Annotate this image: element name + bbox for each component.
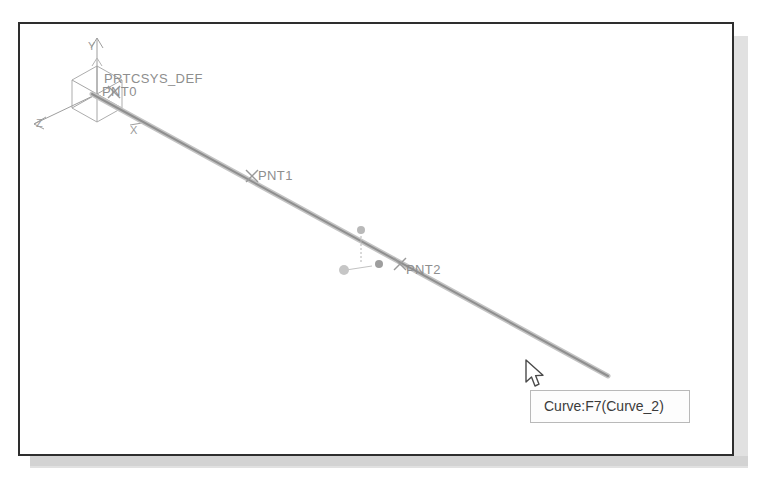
- cad-graphics-window[interactable]: Y Z X PRTCSYS_DEF PNT0 PNT1 PNT2 Curve:F…: [18, 22, 734, 456]
- drag-handle-dot-top: [357, 226, 365, 234]
- drag-handle-anchor: [375, 260, 383, 268]
- curve-f7-curve-2[interactable]: [92, 94, 608, 376]
- axis-label-z: Z: [36, 117, 43, 129]
- point-label-pnt0: PNT0: [102, 84, 137, 99]
- point-label-pnt1: PNT1: [258, 168, 293, 183]
- desktop-bottom-band: [30, 456, 748, 468]
- selection-tooltip: Curve:F7(Curve_2): [530, 390, 690, 423]
- drag-handle-stem-diagonal: [346, 266, 372, 270]
- drag-handle-dot-left: [339, 265, 349, 275]
- axis-label-y: Y: [88, 40, 96, 52]
- axis-label-x: X: [130, 124, 138, 136]
- page-root: Y Z X PRTCSYS_DEF PNT0 PNT1 PNT2 Curve:F…: [0, 0, 769, 485]
- point-label-pnt2: PNT2: [406, 262, 441, 277]
